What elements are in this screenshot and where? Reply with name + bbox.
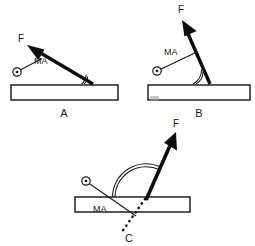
force-label-b: F: [178, 4, 184, 15]
pivot-c: [82, 177, 90, 185]
moment-arm-label-b: MA: [164, 47, 178, 57]
panel-label-a: A: [60, 107, 68, 119]
panel-b: F MA B: [148, 4, 250, 119]
scan-artifact-b: [150, 96, 159, 101]
moment-arm-label-c: MA: [93, 204, 107, 214]
panel-a: F MA A: [11, 33, 118, 119]
panel-c: F MA C: [75, 118, 190, 244]
pivot-b: [153, 67, 161, 75]
bar-b: [148, 85, 250, 100]
pivot-a: [13, 68, 21, 76]
moment-arm-label-a: MA: [34, 56, 48, 66]
force-label-c: F: [173, 118, 179, 129]
panel-label-b: B: [195, 107, 202, 119]
panel-label-c: C: [125, 232, 133, 244]
bar-a: [11, 85, 118, 100]
angle-arc-b: [193, 69, 203, 84]
force-label-a: F: [18, 33, 24, 44]
force-vector-c: [146, 132, 177, 200]
moment-arm-figure: F MA A F MA: [0, 0, 255, 246]
